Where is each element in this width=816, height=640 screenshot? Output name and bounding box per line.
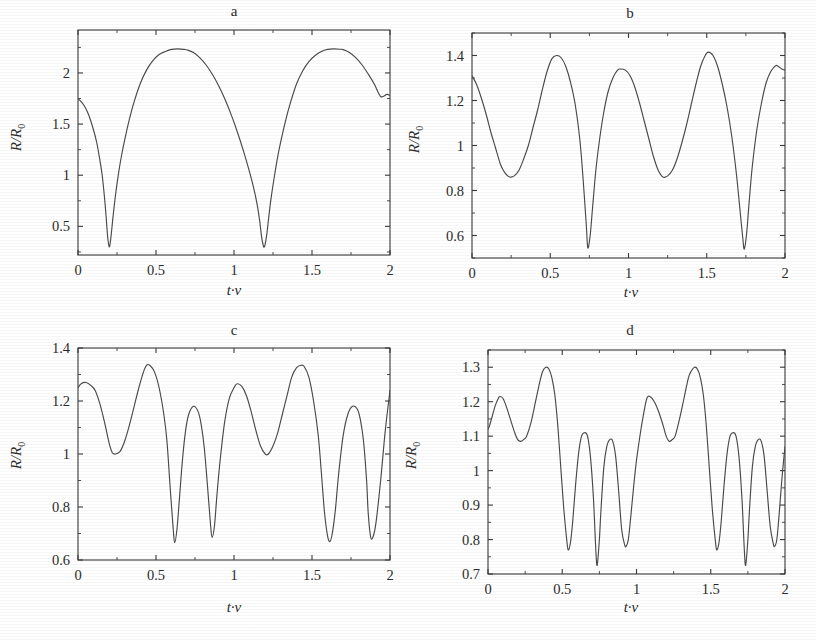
panel-d-plot: 00.511.520.70.80.911.11.21.3 <box>406 320 816 640</box>
svg-text:1: 1 <box>63 167 70 183</box>
yaxis-title-sub: 0 <box>16 124 27 129</box>
svg-text:0: 0 <box>74 567 81 583</box>
yaxis-title-sub: 0 <box>411 442 422 447</box>
curve-d <box>488 367 785 565</box>
svg-text:1: 1 <box>230 262 237 278</box>
yaxis-title-main: R/R <box>406 131 422 154</box>
svg-text:1.5: 1.5 <box>303 567 321 583</box>
curve-c <box>78 364 390 542</box>
curve-b <box>472 52 785 249</box>
panel-d: 00.511.520.70.80.911.11.21.3 <box>406 320 816 640</box>
svg-text:0: 0 <box>484 581 491 597</box>
svg-text:1.3: 1.3 <box>462 359 480 375</box>
panel-a-label: a <box>214 3 254 20</box>
svg-text:1: 1 <box>63 446 70 462</box>
svg-text:0: 0 <box>468 265 475 281</box>
svg-text:0.5: 0.5 <box>147 262 165 278</box>
yaxis-title-sub: 0 <box>16 442 27 447</box>
svg-text:0.9: 0.9 <box>462 497 480 513</box>
panel-d-xaxis-title: t·ν <box>601 599 661 616</box>
panel-a-yaxis-title: R/R0 <box>8 124 27 152</box>
panel-a-plot: 00.511.520.511.52 <box>0 0 410 320</box>
svg-text:0.5: 0.5 <box>52 218 70 234</box>
panel-b-label: b <box>610 5 650 22</box>
panel-c-yaxis-title: R/R0 <box>8 442 27 470</box>
yaxis-title-main: R/R <box>8 129 24 152</box>
svg-text:1.2: 1.2 <box>446 93 464 109</box>
svg-text:0.8: 0.8 <box>446 183 464 199</box>
panel-a: 00.511.520.511.52 <box>0 0 410 320</box>
svg-text:1.5: 1.5 <box>698 265 716 281</box>
svg-text:1: 1 <box>457 138 464 154</box>
svg-text:1: 1 <box>473 463 480 479</box>
svg-text:0.6: 0.6 <box>446 228 464 244</box>
panel-d-label: d <box>610 322 650 339</box>
panel-c-xaxis-title: t·ν <box>204 599 264 616</box>
yaxis-title-main: R/R <box>8 447 24 470</box>
svg-text:1: 1 <box>230 567 237 583</box>
figure-container: 00.511.520.511.52 a t·ν R/R0 00.511.520.… <box>0 0 816 640</box>
svg-text:1: 1 <box>633 581 640 597</box>
svg-text:0: 0 <box>74 262 81 278</box>
svg-text:0.6: 0.6 <box>52 552 70 568</box>
svg-text:2: 2 <box>781 581 788 597</box>
panel-b-plot: 00.511.520.60.811.21.4 <box>406 0 816 320</box>
svg-text:1.4: 1.4 <box>446 48 465 64</box>
yaxis-title-sub: 0 <box>414 126 425 131</box>
svg-text:1: 1 <box>625 265 632 281</box>
svg-text:0.8: 0.8 <box>52 499 70 515</box>
svg-text:1.4: 1.4 <box>52 340 71 356</box>
yaxis-title-main: R/R <box>403 447 419 470</box>
panel-b-yaxis-title: R/R0 <box>406 126 425 154</box>
svg-text:2: 2 <box>781 265 788 281</box>
svg-text:1.5: 1.5 <box>303 262 321 278</box>
panel-c-plot: 00.511.520.60.811.21.4 <box>0 320 410 640</box>
svg-text:1.1: 1.1 <box>462 428 480 444</box>
svg-text:2: 2 <box>386 262 393 278</box>
svg-text:1.5: 1.5 <box>52 116 70 132</box>
panel-d-yaxis-title: R/R0 <box>403 442 422 470</box>
svg-text:1.2: 1.2 <box>462 394 480 410</box>
svg-text:0.5: 0.5 <box>553 581 571 597</box>
panel-b: 00.511.520.60.811.21.4 <box>406 0 816 320</box>
panel-c-label: c <box>214 322 254 339</box>
svg-text:0.7: 0.7 <box>462 566 480 582</box>
svg-text:0.5: 0.5 <box>541 265 559 281</box>
svg-text:2: 2 <box>386 567 393 583</box>
svg-text:2: 2 <box>63 65 70 81</box>
curve-a <box>78 49 390 247</box>
svg-text:1.5: 1.5 <box>702 581 720 597</box>
svg-text:0.5: 0.5 <box>147 567 165 583</box>
svg-text:1.2: 1.2 <box>52 393 70 409</box>
panel-a-xaxis-title: t·ν <box>204 282 264 299</box>
svg-text:0.8: 0.8 <box>462 532 480 548</box>
panel-b-xaxis-title: t·ν <box>601 284 661 301</box>
panel-c: 00.511.520.60.811.21.4 <box>0 320 410 640</box>
